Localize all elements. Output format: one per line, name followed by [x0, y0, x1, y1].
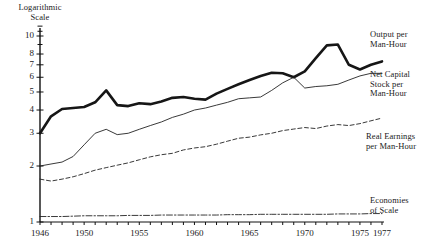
chart-figure: Logarithmic Scale Output per Man-Hour Ne… [0, 0, 428, 250]
series-label-net-capital-stock: Net Capital Stock per Man-Hour [370, 70, 428, 99]
x-axis-tick-label: 1970 [288, 228, 322, 238]
y-axis-tick-label: 1 [16, 216, 34, 226]
x-axis-tick-label: 1960 [177, 228, 211, 238]
chart-plot-area [0, 0, 428, 250]
series-label-economies-of-scale: Economies of Scale [370, 196, 428, 215]
y-axis-tick-label: 2 [16, 160, 34, 170]
x-axis-tick-label: 1965 [233, 228, 267, 238]
series-label-real-earnings: Real Earnings per Man-Hour [366, 132, 428, 151]
y-axis-tick-label: 5 [16, 86, 34, 96]
x-axis-tick-label: 1946 [23, 228, 57, 238]
x-axis-tick-label: 1977 [365, 228, 399, 238]
y-axis-tick-label: 6 [16, 71, 34, 81]
x-axis-tick-label: 1950 [67, 228, 101, 238]
y-axis-tick-label: 8 [16, 48, 34, 58]
x-axis-tick-label: 1955 [122, 228, 156, 238]
series-label-output-per-man-hour: Output per Man-Hour [370, 30, 428, 49]
y-axis-tick-label: 4 [16, 104, 34, 114]
y-axis-tick-label: 10 [16, 30, 34, 40]
y-axis-tick-label: 3 [16, 127, 34, 137]
y-axis-tick-label: 7 [16, 59, 34, 69]
